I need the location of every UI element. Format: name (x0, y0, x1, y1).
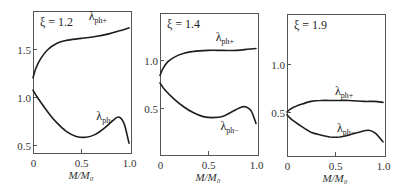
x-tick-label: 0.5 (202, 159, 216, 171)
y-tick-label: 0.5 (271, 107, 285, 119)
y-tick-label: 1.0 (17, 92, 31, 104)
lambda-ph-plus-label: λph+ (216, 30, 235, 46)
x-tick-label: 0.5 (329, 160, 343, 172)
panel-xi-1-4: 0.51.000.51.0 ξ = 1.4 λph+ λph− M/M₀ (144, 14, 264, 184)
xi-label: ξ = 1.4 (167, 17, 200, 31)
lambda-ph-minus-label: λph− (96, 109, 115, 125)
curve-lambda-ph-minus (287, 115, 383, 142)
x-axis-label: M/M₀ (194, 171, 220, 183)
lambda-ph-minus-label: λph− (220, 119, 239, 135)
x-tick-label: 0.5 (75, 157, 89, 169)
plot-frame (161, 14, 259, 156)
plot-frame (34, 12, 132, 154)
x-tick-label: 1.0 (123, 157, 137, 169)
y-tick-label: 0.5 (17, 140, 31, 152)
curve-lambda-ph-plus (33, 28, 129, 78)
y-tick-label: 1.0 (271, 59, 285, 71)
panel-xi-1-2: 0.51.01.500.51.0 ξ = 1.2 λph+ λph− M/M₀ (17, 9, 137, 181)
x-tick-label: 0 (158, 159, 164, 171)
x-tick-label: 0 (285, 160, 291, 172)
x-axis-label: M/M₀ (321, 172, 347, 184)
panel-xi-1-9: 0.51.000.51.0 ξ = 1.9 λph+ λph− M/M₀ (271, 15, 391, 185)
curve-lambda-ph-minus (160, 83, 256, 123)
x-tick-label: 1.0 (250, 159, 264, 171)
xi-label: ξ = 1.9 (294, 18, 327, 32)
y-tick-label: 0.5 (144, 103, 158, 115)
y-tick-label: 1.5 (17, 44, 31, 56)
lambda-ph-minus-label: λph− (337, 121, 356, 137)
curve-lambda-ph-plus (160, 49, 256, 76)
x-axis-label: M/M₀ (67, 169, 93, 181)
x-tick-label: 0 (31, 157, 37, 169)
axis-ticks: 0.51.000.51.0 (271, 59, 391, 173)
figure: 0.51.01.500.51.0 ξ = 1.2 λph+ λph− M/M₀ … (0, 0, 406, 191)
xi-label: ξ = 1.2 (40, 15, 73, 29)
curve-lambda-ph-plus (287, 100, 383, 112)
x-tick-label: 1.0 (377, 160, 391, 172)
lambda-ph-plus-label: λph+ (335, 84, 354, 100)
axis-ticks: 0.51.01.500.51.0 (17, 44, 137, 170)
y-tick-label: 1.0 (144, 55, 158, 67)
